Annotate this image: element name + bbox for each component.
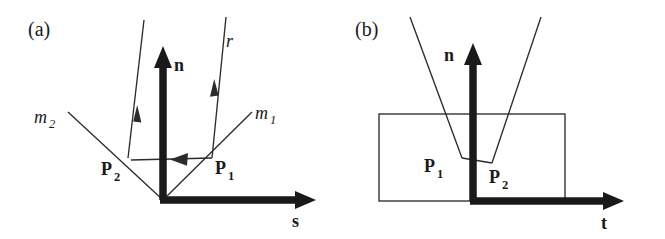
point-p1-label-base: P [215, 158, 226, 178]
incident-ray-r-arrowhead [210, 79, 219, 97]
microfacet-m1-label-sub: 1 [270, 113, 276, 127]
p1-p2-transfer-line-b [462, 158, 492, 163]
tangent-axis-arrowhead-b [603, 192, 624, 210]
panel-a: (a) n s m [28, 17, 316, 231]
panel-b-tag: (b) [355, 18, 378, 41]
figure-root: (a) n s m [0, 0, 665, 239]
point-p1-label-sub: 1 [228, 169, 234, 183]
exit-ray-right-line [492, 17, 541, 163]
microfacet-m1-label-base: m [255, 103, 268, 123]
normal-axis-label-b: n [444, 45, 454, 65]
microfacet-m2-label-sub: 2 [49, 117, 55, 131]
tangent-axis-label-a: s [292, 211, 299, 231]
incident-ray-r-label: r [226, 31, 234, 51]
microfacet-m1-line [163, 112, 252, 200]
microfacet-m2-label-a: m 2 [34, 107, 55, 131]
figure-canvas: (a) n s m [0, 0, 665, 239]
tangent-axis-label-b: t [601, 213, 607, 233]
incident-ray-left-line [410, 17, 462, 158]
tangent-axis-arrowhead-a [295, 191, 316, 209]
normal-axis-label-a: n [174, 55, 184, 75]
point-p1-label-b: P 1 [424, 156, 443, 181]
point-p1-label-a: P 1 [215, 158, 234, 183]
point-p2-label-sub-b: 2 [502, 178, 508, 192]
point-p2-label-base-b: P [489, 167, 500, 187]
point-p1-label-sub-b: 1 [437, 167, 443, 181]
panel-a-tag: (a) [28, 18, 50, 41]
normal-axis-arrowhead-b [464, 43, 482, 65]
exit-ray-m2-line [128, 20, 144, 158]
microfacet-m2-label-base: m [34, 107, 47, 127]
point-p1-label-base-b: P [424, 156, 435, 176]
panel-b: (b) n t P 1 P 2 [355, 17, 624, 233]
point-p2-label-b: P 2 [489, 167, 508, 192]
point-p2-label-base: P [101, 159, 112, 179]
p1-p2-transfer-arrowhead [170, 153, 188, 166]
normal-axis-arrowhead-a [154, 46, 172, 68]
point-p2-label-a: P 2 [101, 159, 120, 184]
microfacet-m1-label-a: m 1 [255, 103, 276, 127]
microfacet-m2-line [68, 112, 163, 200]
point-p2-label-sub: 2 [114, 170, 120, 184]
